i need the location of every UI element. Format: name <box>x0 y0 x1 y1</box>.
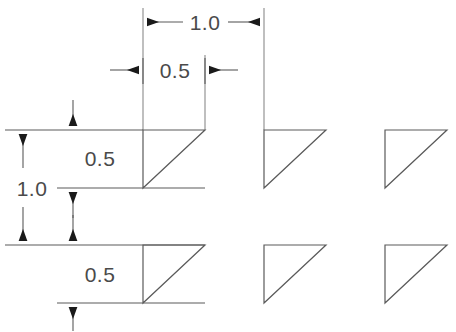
dimension-label-height-bottom: 0.5 <box>85 263 116 286</box>
triangle-r2c1 <box>143 245 205 303</box>
dimension-label-height-top: 0.5 <box>85 147 116 170</box>
dimension-label-pitch-y: 1.0 <box>17 177 48 200</box>
triangle-r1c1 <box>143 130 205 188</box>
triangle-array <box>143 130 447 303</box>
triangle-r1c2 <box>264 130 326 188</box>
triangle-r2c2 <box>264 245 326 303</box>
dimension-label-width-x: 0.5 <box>160 59 191 82</box>
triangle-r2c3 <box>385 245 447 303</box>
dimension-label-pitch-x: 1.0 <box>190 11 221 34</box>
triangle-r1c3 <box>385 130 447 188</box>
drawing-canvas: 1.0 0.5 1.0 0.5 0.5 <box>0 0 456 332</box>
technical-drawing: 1.0 0.5 1.0 0.5 0.5 <box>0 0 456 332</box>
